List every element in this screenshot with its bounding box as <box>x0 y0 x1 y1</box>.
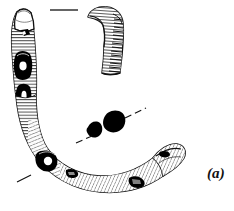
artifact-drawing <box>0 0 234 211</box>
figure-panel: (a) <box>0 0 234 211</box>
inlay-mid-left <box>14 51 33 80</box>
figure-label: (a) <box>207 166 225 181</box>
